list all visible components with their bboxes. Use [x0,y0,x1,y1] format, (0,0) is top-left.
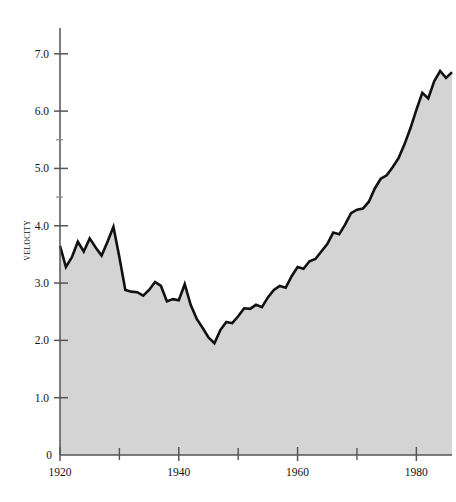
y-tick-label-2.0: 2.0 [35,334,50,346]
x-tick-label-1980: 1980 [405,466,428,478]
x-tick-label-1940: 1940 [167,466,190,478]
y-tick-label-6.0: 6.0 [35,105,50,117]
x-tick-label-1960: 1960 [286,466,309,478]
y-tick-label-1.0: 1.0 [35,392,50,404]
y-tick-label-5.0: 5.0 [35,162,50,174]
y-tick-label-7.0: 7.0 [35,48,50,60]
velocity-area-chart: 1.02.03.04.05.06.07.0 1920194019601980 0… [0,0,456,502]
y-tick-label-4.0: 4.0 [35,220,50,232]
y-origin-label: 0 [46,449,52,461]
chart-figure: 1.02.03.04.05.06.07.0 1920194019601980 0… [0,0,456,502]
y-axis-title: VELOCITY [24,219,32,260]
y-tick-label-3.0: 3.0 [35,277,50,289]
x-tick-label-1920: 1920 [49,466,72,478]
